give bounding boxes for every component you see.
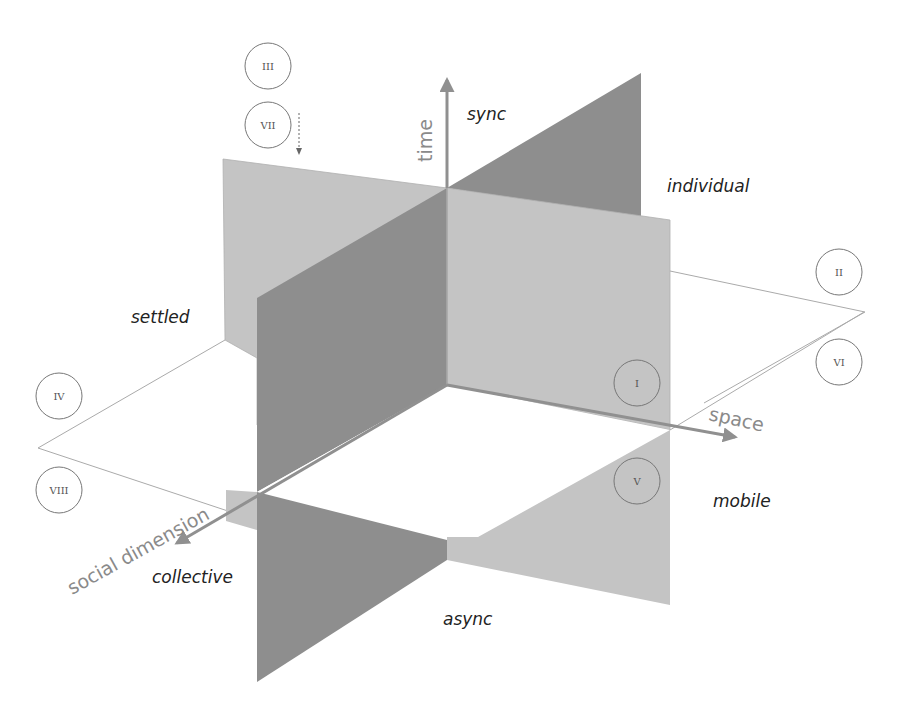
octant-II: II <box>816 249 862 295</box>
octant-VIII: VIII <box>36 467 82 513</box>
octant-VII: VII <box>245 102 291 148</box>
sync-label: sync <box>467 104 507 124</box>
mobile-label: mobile <box>713 491 771 511</box>
svg-text:II: II <box>835 267 843 278</box>
collective-label: collective <box>152 567 233 587</box>
svg-text:VI: VI <box>832 357 844 368</box>
octant-VI: VI <box>816 339 862 385</box>
svg-text:IV: IV <box>53 391 65 402</box>
svg-text:III: III <box>262 61 274 72</box>
svg-text:V: V <box>632 476 641 487</box>
time-axis-label: time <box>414 119 436 162</box>
octant-diagram: time space social dimension sync individ… <box>0 0 900 711</box>
svg-text:VIII: VIII <box>48 485 68 496</box>
svg-text:I: I <box>635 378 639 389</box>
space-axis-label: space <box>707 402 766 435</box>
settled-label: settled <box>131 307 190 327</box>
svg-text:VII: VII <box>259 120 275 131</box>
octant-III: III <box>245 43 291 89</box>
individual-label: individual <box>667 176 750 196</box>
async-label: async <box>443 609 493 629</box>
octant-IV: IV <box>36 373 82 419</box>
